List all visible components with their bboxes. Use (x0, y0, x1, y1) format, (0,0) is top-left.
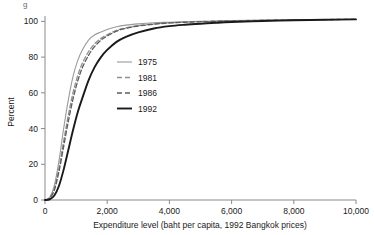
y-tick-label: 0 (33, 195, 38, 205)
y-axis-ticks (41, 21, 45, 200)
chart-canvas: g 020406080100 Percent 02,0004,0006,0008… (0, 0, 374, 235)
y-axis-title: Percent (6, 97, 16, 127)
x-tick-label: 8,000 (283, 206, 305, 216)
legend-label-1986[interactable]: 1986 (138, 88, 157, 98)
y-tick-label: 100 (24, 16, 38, 26)
x-tick-label: 4,000 (159, 206, 181, 216)
legend-label-1975[interactable]: 1975 (138, 57, 157, 67)
x-tick-label: 2,000 (97, 206, 119, 216)
figure-container: g 020406080100 Percent 02,0004,0006,0008… (0, 0, 374, 235)
caption-fragment: g (23, 0, 27, 9)
legend-label-1992[interactable]: 1992 (138, 104, 157, 114)
y-axis-tick-labels: 020406080100 (24, 16, 38, 205)
x-tick-label: 10,000 (343, 206, 369, 216)
x-axis-ticks (45, 200, 356, 204)
y-tick-label: 40 (29, 124, 39, 134)
data-series-group (45, 19, 356, 200)
y-axis: 020406080100 Percent (6, 16, 45, 205)
y-tick-label: 20 (29, 159, 39, 169)
legend-label-1981[interactable]: 1981 (138, 73, 157, 83)
x-axis-title: Expenditure level (baht per capita, 1992… (93, 220, 307, 230)
series-line-1981 (45, 19, 356, 200)
y-tick-label: 60 (29, 88, 39, 98)
x-axis-tick-labels: 02,0004,0006,0008,00010,000 (43, 206, 370, 216)
x-tick-label: 6,000 (221, 206, 243, 216)
x-tick-label: 0 (43, 206, 48, 216)
x-axis: 02,0004,0006,0008,00010,000 Expenditure … (43, 200, 370, 230)
chart-legend: 1975198119861992 (117, 57, 157, 114)
y-tick-label: 80 (29, 52, 39, 62)
